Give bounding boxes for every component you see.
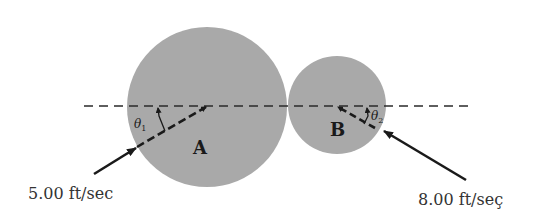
- ball-a: [127, 27, 287, 187]
- ball-a-speed-label: 5.00 ft/sec: [28, 184, 113, 203]
- ball-a-label: A: [192, 137, 208, 158]
- ball-b-velocity-arrow: [384, 131, 466, 180]
- ball-a-velocity-arrow: [94, 148, 136, 174]
- ball-b-label: B: [330, 119, 345, 140]
- ball-b-speed-label: 8.00 ft/seç: [418, 190, 503, 209]
- collision-diagram: θ1 A θ2 B 5.00 ft/sec 8.00 ft/seç: [0, 0, 559, 213]
